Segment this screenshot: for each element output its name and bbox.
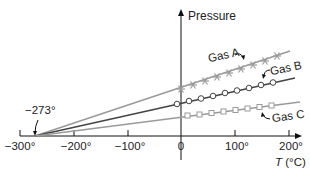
- x-axis-label-var: T: [275, 156, 282, 168]
- x-tick-label: 100°: [225, 141, 249, 153]
- x-tick-label: 200°: [279, 141, 303, 153]
- x-tick-label: −200°: [61, 141, 92, 153]
- gas-b-pointer-head-icon: [262, 74, 266, 79]
- x-tick-label: −300°: [5, 141, 36, 153]
- y-axis-label: Pressure: [188, 10, 236, 22]
- x-axis-arrow-icon: [295, 133, 302, 139]
- y-axis-arrow-icon: [178, 9, 184, 16]
- annotation-label: −273°: [25, 105, 56, 117]
- x-axis-label-unit: (°C): [282, 156, 306, 168]
- x-axis-label: T (°C): [275, 157, 306, 169]
- x-tick-label: 0: [178, 141, 184, 153]
- x-tick-label: −100°: [115, 141, 146, 153]
- chart-plot: [0, 0, 310, 171]
